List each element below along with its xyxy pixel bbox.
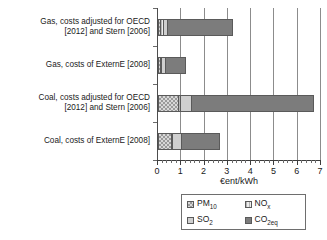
category-row: Gas, costs of ExternE [2008] (157, 46, 320, 84)
legend-swatch-pm10 (187, 201, 194, 208)
x-axis-title: €ent/kWh (157, 176, 321, 186)
x-tick-major (250, 160, 251, 165)
x-tick-minor (264, 160, 265, 163)
x-axis: 01234567 (157, 160, 321, 161)
x-tick-major (227, 160, 228, 165)
x-tick-minor (259, 160, 260, 163)
category-tick (153, 122, 157, 123)
legend-swatch-co2eq (245, 217, 252, 224)
x-tick-minor (311, 160, 312, 163)
bar-segment-pm10 (158, 133, 171, 150)
category-row: Gas, costs adjusted for OECD[2012] and S… (157, 8, 320, 46)
category-tick (153, 84, 157, 85)
x-tick-minor (306, 160, 307, 163)
x-tick-label: 2 (201, 166, 206, 176)
x-tick-minor (194, 160, 195, 163)
bar-stack (158, 57, 186, 74)
bar-segment-co2eq (181, 133, 219, 150)
bar-segment-so2 (172, 133, 181, 150)
x-tick-minor (269, 160, 270, 163)
category-row: Coal, costs of ExternE [2008] (157, 122, 320, 160)
x-tick-label: 1 (178, 166, 183, 176)
category-label: Gas, costs of ExternE [2008] (0, 60, 150, 70)
bar-stack (158, 19, 233, 36)
chart-figure: Gas, costs adjusted for OECD[2012] and S… (0, 0, 327, 240)
x-tick-minor (278, 160, 279, 163)
x-tick-major (273, 160, 274, 165)
x-tick-minor (190, 160, 191, 163)
x-tick-minor (292, 160, 293, 163)
x-tick-minor (162, 160, 163, 163)
legend-entry-pm10: PM10 (187, 198, 243, 212)
x-tick-minor (287, 160, 288, 163)
x-tick-minor (171, 160, 172, 163)
legend-entry-so2: SO2 (187, 214, 243, 228)
legend-label-co2eq: CO2eq (255, 214, 278, 228)
x-tick-label: 6 (294, 166, 299, 176)
legend-swatch-nox (245, 201, 252, 208)
x-tick-label: 0 (154, 166, 159, 176)
plot-area: Gas, costs adjusted for OECD[2012] and S… (157, 8, 320, 160)
bar-segment-co2eq (167, 19, 232, 36)
category-label: Coal, costs adjusted for OECD[2012] and … (0, 93, 150, 114)
x-tick-major (157, 160, 158, 165)
bar-segment-co2eq (191, 95, 314, 112)
x-tick-minor (255, 160, 256, 163)
legend-swatch-so2 (187, 217, 194, 224)
category-tick (153, 8, 157, 9)
bar-segment-so2 (180, 95, 190, 112)
x-tick-minor (245, 160, 246, 163)
legend-label-pm10: PM10 (197, 198, 217, 212)
x-tick-label: 3 (224, 166, 229, 176)
x-tick-minor (208, 160, 209, 163)
category-tick (153, 46, 157, 47)
legend-entry-co2eq: CO2eq (245, 214, 301, 228)
x-tick-major (204, 160, 205, 165)
bar-stack (158, 95, 314, 112)
legend-label-nox: NOx (255, 198, 271, 212)
x-tick-minor (166, 160, 167, 163)
x-tick-minor (222, 160, 223, 163)
category-label: Coal, costs of ExternE [2008] (0, 136, 150, 146)
x-tick-minor (176, 160, 177, 163)
x-tick-minor (185, 160, 186, 163)
gridline-7 (320, 8, 321, 160)
x-tick-label: 5 (271, 166, 276, 176)
x-tick-minor (301, 160, 302, 163)
bar-segment-co2eq (165, 57, 186, 74)
x-tick-major (180, 160, 181, 165)
x-tick-minor (236, 160, 237, 163)
x-tick-minor (218, 160, 219, 163)
x-tick-label: 7 (317, 166, 322, 176)
x-tick-minor (232, 160, 233, 163)
chart-legend: PM10NOxSO2CO2eq (181, 194, 306, 230)
x-tick-major (297, 160, 298, 165)
x-tick-minor (241, 160, 242, 163)
x-tick-label: 4 (248, 166, 253, 176)
x-tick-minor (315, 160, 316, 163)
legend-grid: PM10NOxSO2CO2eq (187, 198, 300, 227)
x-tick-minor (213, 160, 214, 163)
x-tick-minor (283, 160, 284, 163)
legend-entry-nox: NOx (245, 198, 301, 212)
bar-stack (158, 133, 220, 150)
category-label: Gas, costs adjusted for OECD[2012] and S… (0, 17, 150, 38)
x-tick-major (320, 160, 321, 165)
category-row: Coal, costs adjusted for OECD[2012] and … (157, 84, 320, 122)
x-tick-minor (199, 160, 200, 163)
bar-segment-pm10 (158, 95, 178, 112)
legend-label-so2: SO2 (197, 214, 213, 228)
